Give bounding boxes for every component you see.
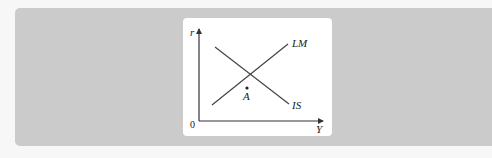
point-a-label: A [242, 90, 250, 102]
lm-label: LM [291, 37, 308, 49]
y-axis-label: r [190, 26, 195, 38]
origin-label: 0 [190, 119, 195, 130]
is-lm-diagram: r 0 Y LM IS A [0, 0, 492, 158]
x-axis-label: Y [316, 123, 324, 135]
is-curve [215, 47, 289, 104]
is-label: IS [291, 99, 302, 111]
